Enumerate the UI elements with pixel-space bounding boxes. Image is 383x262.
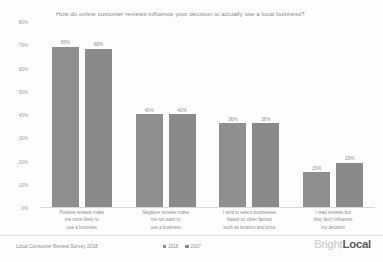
y-axis-tick: 30% — [19, 136, 28, 141]
plot-area: 69%68%40%40%36%36%15%19% — [40, 22, 375, 208]
y-axis-tick: 20% — [19, 159, 28, 164]
legend-label: 2018 — [168, 244, 178, 249]
x-axis-category-label: I read reviews butthey don't influencemy… — [291, 209, 375, 231]
chart-title: How do online customer reviews influence… — [56, 10, 356, 17]
bar-value-label: 40% — [178, 108, 187, 113]
bar[interactable] — [136, 114, 163, 207]
bar[interactable] — [252, 123, 279, 207]
bar-holder: 36% — [252, 22, 279, 207]
bar[interactable] — [52, 47, 79, 207]
bar-value-label: 36% — [261, 117, 270, 122]
bar-group: 69%68% — [40, 22, 124, 207]
brand-suffix-text: Local — [342, 238, 371, 250]
bar[interactable] — [336, 163, 363, 207]
y-axis-tick: 60% — [19, 66, 28, 71]
bar[interactable] — [219, 123, 246, 207]
y-axis-tick: 10% — [19, 182, 28, 187]
legend-swatch-icon — [163, 245, 166, 248]
brightlocal-logo: BrightLocal — [314, 238, 371, 250]
source-caption: Local Consumer Review Survey 2018 — [16, 244, 98, 249]
bar-value-label: 15% — [312, 166, 321, 171]
chart-footer: Local Consumer Review Survey 2018 201820… — [0, 235, 383, 262]
x-axis-category-label: Positive reviews makeme more likely tous… — [40, 209, 124, 231]
bar-holder: 40% — [136, 22, 163, 207]
chart-legend: 20182017 — [163, 244, 201, 249]
y-axis-tick: 70% — [19, 43, 28, 48]
legend-swatch-icon — [185, 245, 188, 248]
plot-wrapper: 80%70%60%50%40%30%20%10%0% 69%68%40%40%3… — [0, 22, 383, 208]
y-axis: 80%70%60%50%40%30%20%10%0% — [0, 22, 40, 208]
bar-group: 36%36% — [208, 22, 292, 207]
legend-item[interactable]: 2018 — [163, 244, 178, 249]
bar-holder: 36% — [219, 22, 246, 207]
chart-container: How do online customer reviews influence… — [0, 0, 383, 262]
x-axis-category-label: I tend to select businessesbased on othe… — [208, 209, 292, 231]
bar-group: 40%40% — [124, 22, 208, 207]
bar-holder: 69% — [52, 22, 79, 207]
y-axis-tick: 80% — [19, 20, 28, 25]
y-axis-tick: 40% — [19, 113, 28, 118]
legend-item[interactable]: 2017 — [185, 244, 200, 249]
bar-value-label: 19% — [345, 156, 354, 161]
bar[interactable] — [85, 49, 112, 207]
bar-holder: 19% — [336, 22, 363, 207]
bar-group: 15%19% — [291, 22, 375, 207]
bar-holder: 68% — [85, 22, 112, 207]
brand-prefix-text: Bright — [314, 238, 342, 250]
x-axis-labels: Positive reviews makeme more likely tous… — [40, 209, 375, 231]
bar-holder: 40% — [169, 22, 196, 207]
legend-label: 2017 — [191, 244, 201, 249]
bar-value-label: 36% — [228, 117, 237, 122]
bar[interactable] — [303, 172, 330, 207]
y-axis-tick: 0% — [21, 206, 28, 211]
bar-holder: 15% — [303, 22, 330, 207]
y-axis-tick: 50% — [19, 89, 28, 94]
bar-value-label: 69% — [61, 40, 70, 45]
bar-value-label: 40% — [145, 108, 154, 113]
bar[interactable] — [169, 114, 196, 207]
bar-value-label: 68% — [94, 42, 103, 47]
x-axis-category-label: Negative reviews makeme not want touse a… — [124, 209, 208, 231]
